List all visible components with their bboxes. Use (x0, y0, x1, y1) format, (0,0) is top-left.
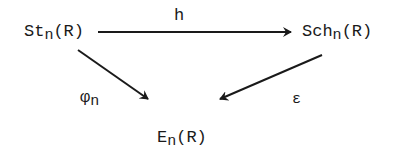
node-st-subscript: n (44, 27, 53, 44)
node-e-arg: (R) (176, 128, 207, 147)
label-phi-subscript: n (90, 93, 99, 110)
node-sch-n-r: Schn(R) (302, 22, 372, 43)
commutative-diagram: Stn(R) Schn(R) En(R) h φn ε (0, 0, 400, 168)
label-phi-n: φn (80, 88, 99, 109)
node-st-base: St (24, 22, 44, 41)
arrow-epsilon (220, 55, 322, 99)
node-sch-base: Sch (302, 22, 333, 41)
node-st-arg: (R) (53, 22, 84, 41)
node-st-n-r: Stn(R) (24, 22, 84, 43)
node-sch-arg: (R) (342, 22, 373, 41)
node-e-n-r: En(R) (157, 128, 207, 149)
label-epsilon: ε (292, 90, 301, 110)
label-phi-base: φ (80, 88, 90, 107)
label-h: h (174, 6, 184, 26)
node-sch-subscript: n (333, 27, 342, 44)
node-e-base: E (157, 128, 167, 147)
node-e-subscript: n (167, 133, 176, 150)
